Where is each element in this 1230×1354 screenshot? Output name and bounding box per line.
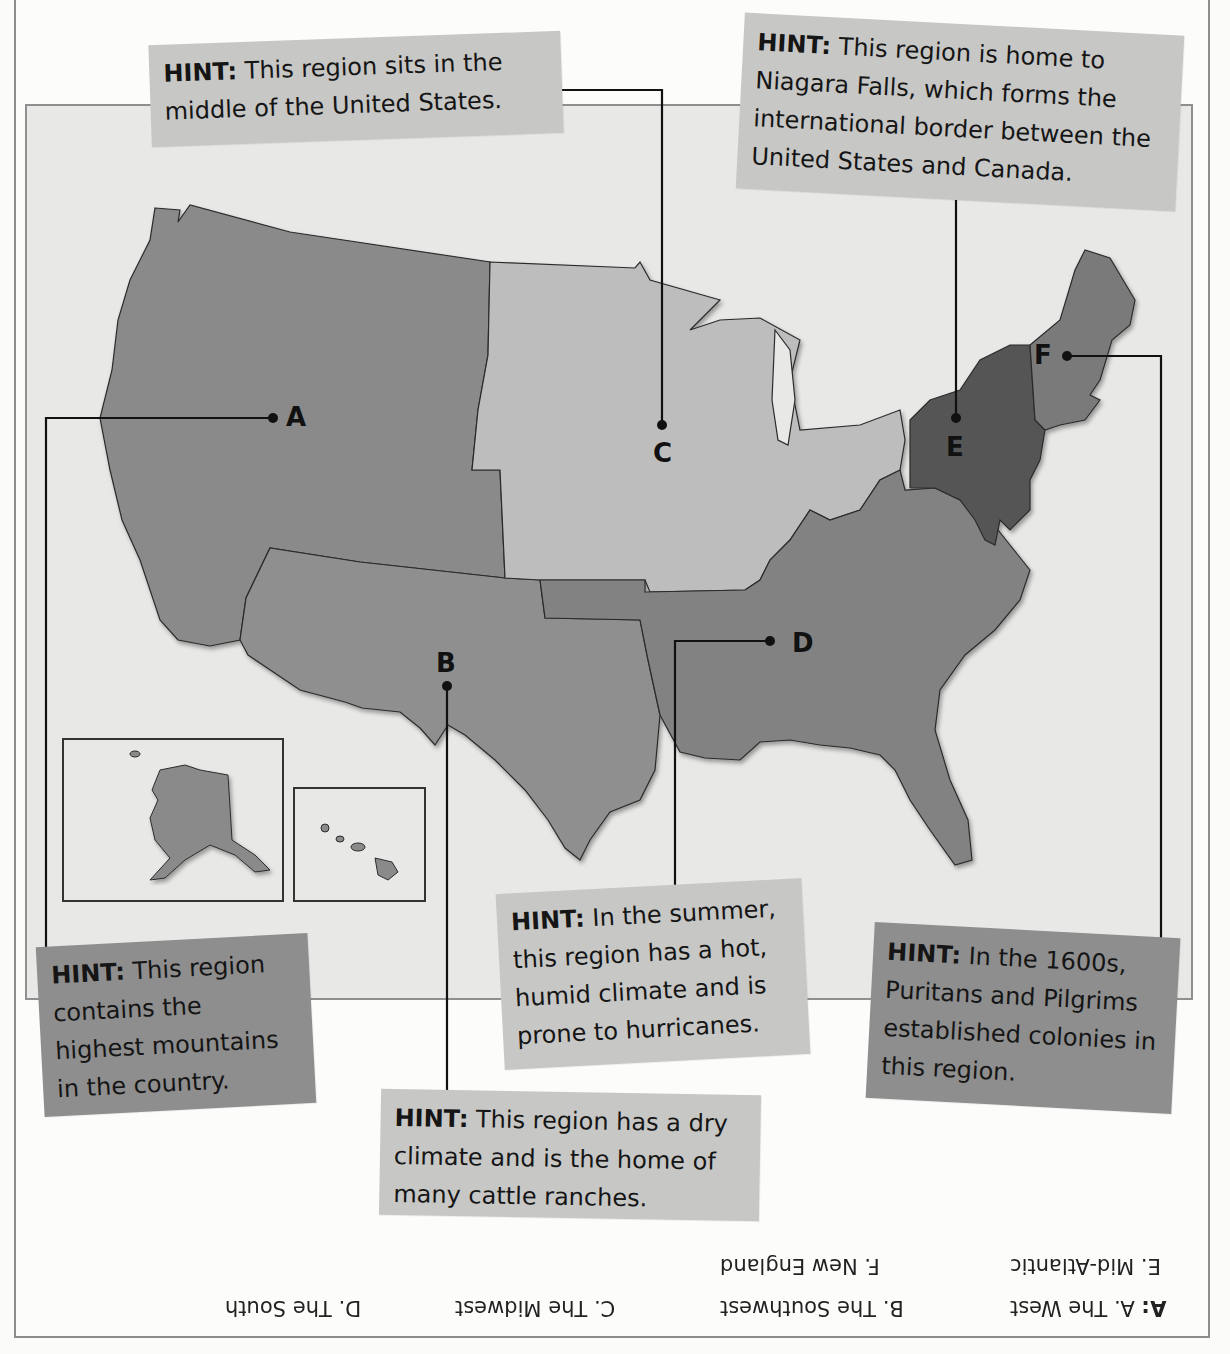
answer-prefix-and-first: A: A. The West bbox=[1010, 1296, 1166, 1320]
hint-box-west: HINT: This region contains the highest m… bbox=[36, 933, 317, 1117]
hint-label: HINT: bbox=[163, 57, 238, 88]
marker-letter-f: F bbox=[1034, 340, 1052, 370]
hint-box-southwest: HINT: This region has a dry climate and … bbox=[379, 1089, 761, 1222]
hawaii-big-island bbox=[375, 858, 398, 880]
hint-label: HINT: bbox=[510, 905, 585, 937]
hint-box-midwest: HINT: This region sits in the middle of … bbox=[148, 31, 563, 147]
marker-dot-c bbox=[657, 420, 667, 430]
marker-letter-a: A bbox=[286, 402, 306, 432]
hint-label: HINT: bbox=[394, 1104, 468, 1133]
marker-letter-c: C bbox=[653, 438, 672, 468]
answer-item: C. The Midwest bbox=[455, 1296, 615, 1320]
marker-dot-a bbox=[268, 413, 278, 423]
hint-box-midatlantic: HINT: This region is home to Niagara Fal… bbox=[736, 13, 1185, 212]
answer-item: D. The South bbox=[225, 1296, 361, 1320]
marker-letter-b: B bbox=[436, 648, 456, 678]
marker-letter-e: E bbox=[946, 432, 964, 462]
answer-key-row-2: E. Mid-Atlantic F. New England bbox=[40, 1248, 1190, 1278]
answer-item: F. New England bbox=[720, 1254, 880, 1278]
hint-label: HINT: bbox=[757, 28, 832, 60]
marker-dot-e bbox=[951, 413, 961, 423]
hint-label: HINT: bbox=[887, 938, 962, 970]
answer-item: E. Mid-Atlantic bbox=[1010, 1254, 1161, 1278]
answer-key-row-1: A: A. The West B. The Southwest C. The M… bbox=[40, 1290, 1190, 1320]
marker-dot-b bbox=[442, 681, 452, 691]
marker-dot-f bbox=[1062, 351, 1072, 361]
hint-box-south: HINT: In the summer, this region has a h… bbox=[496, 878, 811, 1070]
hint-box-newengland: HINT: In the 1600s, Puritans and Pilgrim… bbox=[866, 922, 1181, 1114]
alaska-shape bbox=[150, 765, 270, 880]
marker-dot-d bbox=[765, 636, 775, 646]
marker-letter-d: D bbox=[792, 628, 814, 658]
answer-item: B. The Southwest bbox=[720, 1296, 904, 1320]
answer-key-upside-down: A: A. The West B. The Southwest C. The M… bbox=[40, 1240, 1190, 1320]
hint-label: HINT: bbox=[51, 958, 126, 990]
